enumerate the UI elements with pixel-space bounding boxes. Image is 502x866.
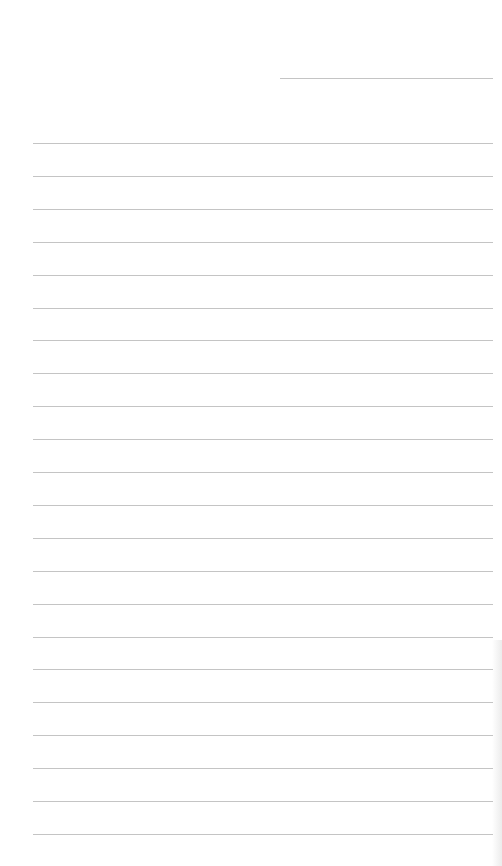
ruled-line xyxy=(33,275,493,276)
ruled-line xyxy=(33,571,493,572)
ruled-line xyxy=(33,308,493,309)
ruled-line xyxy=(33,143,493,144)
ruled-line xyxy=(33,340,493,341)
ruled-line xyxy=(33,242,493,243)
ruled-line xyxy=(33,702,493,703)
date-line xyxy=(280,78,493,79)
ruled-line xyxy=(33,406,493,407)
ruled-line xyxy=(33,439,493,440)
ruled-line xyxy=(33,768,493,769)
page-edge-shadow xyxy=(492,640,502,866)
ruled-line xyxy=(33,505,493,506)
ruled-line xyxy=(33,637,493,638)
ruled-line xyxy=(33,176,493,177)
ruled-line xyxy=(33,801,493,802)
ruled-line xyxy=(33,472,493,473)
ruled-line xyxy=(33,373,493,374)
ruled-line xyxy=(33,209,493,210)
ruled-line xyxy=(33,834,493,835)
ruled-line xyxy=(33,538,493,539)
ruled-line xyxy=(33,604,493,605)
ruled-line xyxy=(33,735,493,736)
ruled-line xyxy=(33,669,493,670)
